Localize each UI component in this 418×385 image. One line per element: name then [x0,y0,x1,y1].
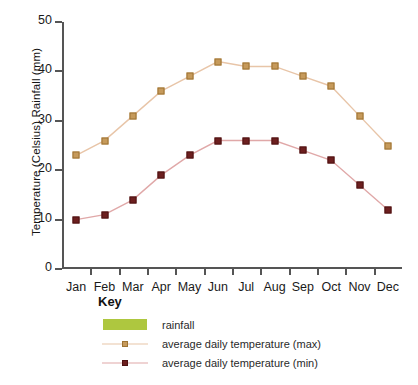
x-tick-mark [260,269,262,275]
key-entry-temp-min: average daily temperature (min) [96,353,396,372]
data-point-max-may [186,73,193,80]
y-tick-label: 50 [38,13,52,27]
y-tick-label: 40 [38,62,52,76]
x-tick-label-aug: Aug [263,280,285,294]
data-point-min-aug [271,137,278,144]
x-tick-label-jun: Jun [208,280,228,294]
key-entry-temp-max: average daily temperature (max) [96,334,396,353]
data-point-max-jan [73,152,80,159]
data-point-min-apr [158,172,165,179]
x-tick-label-oct: Oct [321,280,340,294]
y-tick-mark [55,169,62,171]
temp-min-marker-icon [122,360,128,366]
rainfall-swatch-icon [103,319,147,330]
data-point-max-sep [299,73,306,80]
y-tick-mark [55,268,62,270]
data-point-min-jul [243,137,250,144]
climate-chart: Temperature (Celsius) Rainfall (mm) 0102… [0,0,418,385]
temp-max-line-icon [102,340,148,347]
data-point-max-oct [328,83,335,90]
y-tick-label: 30 [38,112,52,126]
data-point-max-aug [271,63,278,70]
y-tick-label: 0 [45,260,52,274]
y-tick-mark [55,120,62,122]
data-point-max-mar [129,112,136,119]
y-tick-label: 20 [38,161,52,175]
data-point-max-nov [356,112,363,119]
series-line-temp-max [76,62,388,156]
x-tick-mark [90,269,92,275]
data-point-max-dec [384,142,391,149]
x-tick-mark [289,269,291,275]
x-tick-mark [175,269,177,275]
data-point-min-nov [356,182,363,189]
data-point-max-jun [214,58,221,65]
x-tick-label-dec: Dec [377,280,399,294]
data-point-min-mar [129,196,136,203]
x-tick-label-may: May [178,280,202,294]
series-lines [62,22,402,269]
key-label-temp-min: average daily temperature (min) [162,357,318,369]
data-point-min-sep [299,147,306,154]
x-tick-mark [374,269,376,275]
key-entry-rainfall: rainfall [96,315,396,334]
key-title: Key [98,294,396,309]
data-point-max-jul [243,63,250,70]
x-tick-label-apr: Apr [151,280,170,294]
data-point-min-dec [384,206,391,213]
key-sample-temp-min [96,359,154,366]
data-point-max-apr [158,88,165,95]
x-tick-mark [147,269,149,275]
plot-area: 01020304050 JanFebMarAprMayJunJulAugSepO… [62,22,402,269]
key-label-temp-max: average daily temperature (max) [162,338,321,350]
data-point-min-oct [328,157,335,164]
series-line-temp-min [76,141,388,220]
y-tick-mark [55,70,62,72]
x-tick-mark [317,269,319,275]
x-tick-mark [232,269,234,275]
key-label-rainfall: rainfall [162,319,194,331]
x-tick-mark [119,269,121,275]
temp-min-line-icon [102,359,148,366]
x-tick-label-jan: Jan [66,280,86,294]
data-point-min-may [186,152,193,159]
data-point-min-jan [73,216,80,223]
y-axis-title: Temperature (Celsius) Rainfall (mm) [30,22,42,262]
x-tick-label-feb: Feb [94,280,116,294]
data-point-min-jun [214,137,221,144]
chart-key: Key rainfall average daily temperature (… [96,294,396,372]
x-tick-label-sep: Sep [292,280,314,294]
key-sample-temp-max [96,340,154,347]
data-point-min-feb [101,211,108,218]
temp-max-marker-icon [122,341,128,347]
x-tick-mark [345,269,347,275]
x-tick-label-jul: Jul [238,280,254,294]
x-tick-mark [204,269,206,275]
data-point-max-feb [101,137,108,144]
x-tick-label-nov: Nov [348,280,370,294]
x-tick-label-mar: Mar [122,280,144,294]
y-tick-label: 10 [38,211,52,225]
y-tick-mark [55,21,62,23]
key-sample-rainfall [96,319,154,330]
y-tick-mark [55,219,62,221]
